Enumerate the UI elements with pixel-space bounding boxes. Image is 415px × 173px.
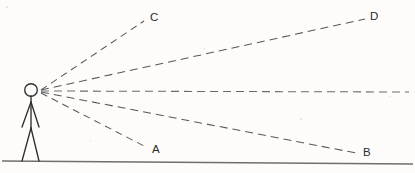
figure-arm-right	[31, 102, 39, 127]
ray-label-d: D	[370, 10, 378, 22]
ray-label-a: A	[152, 143, 160, 155]
ray-b-line	[41, 92, 356, 153]
ray-a-line	[41, 93, 146, 147]
ray-label-b: B	[363, 146, 371, 158]
ray-label-c: C	[150, 11, 158, 23]
line-of-sight-diagram: C D B A	[0, 0, 415, 173]
figure-leg-left	[22, 128, 31, 161]
figure-arm-left	[22, 102, 31, 127]
diagram-canvas: C D B A	[0, 0, 415, 173]
ray-d-line	[41, 19, 365, 90]
figure-leg-right	[31, 128, 39, 161]
ray-group	[41, 19, 409, 153]
figure-head-icon	[25, 84, 38, 97]
ray-label-group: C D B A	[150, 10, 378, 158]
ground-line	[2, 161, 413, 164]
ray-c-line	[41, 21, 144, 90]
ray-horizon-line	[41, 91, 409, 92]
stick-figure-observer	[22, 84, 39, 161]
